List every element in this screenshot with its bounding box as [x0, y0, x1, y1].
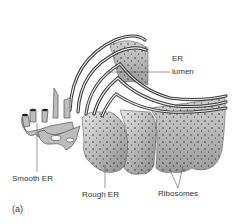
panel-label: (a) [12, 205, 23, 214]
label-er: ER [172, 54, 183, 63]
endoplasmic-reticulum-illustration [0, 0, 240, 224]
label-smooth-er: Smooth ER [12, 174, 53, 183]
label-rough-er: Rough ER [82, 190, 119, 199]
label-ribosomes: Ribosomes [158, 189, 198, 198]
label-lumen: lumen [172, 67, 194, 76]
er-diagram: ER lumen Smooth ER Rough ER Ribosomes (a… [0, 0, 240, 224]
